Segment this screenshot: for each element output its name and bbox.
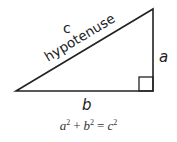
right-triangle <box>16 9 153 91</box>
right-angle-marker <box>139 77 153 91</box>
side-a-label: a <box>159 48 168 66</box>
formula-plus: + <box>73 118 80 133</box>
side-b-label: b <box>82 96 92 114</box>
formula-exp-c: 2 <box>113 118 117 127</box>
formula-equals: = <box>97 118 104 133</box>
pythagorean-formula: a2+b2=c2 <box>0 118 177 134</box>
formula-exp-a: 2 <box>66 118 70 127</box>
formula-exp-b: 2 <box>90 118 94 127</box>
